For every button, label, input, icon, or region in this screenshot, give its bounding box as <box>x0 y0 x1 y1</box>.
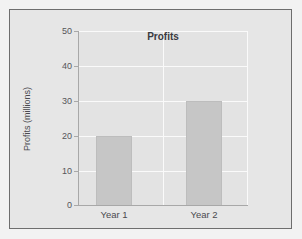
bar-chart-figure: 50 40 30 20 10 0 Year 1 Year 2 Profits P… <box>0 0 302 239</box>
y-tick-label-30: 30 <box>50 97 72 106</box>
gridline-x-right <box>247 31 248 205</box>
y-axis-tick-labels: 50 40 30 20 10 0 <box>48 0 72 239</box>
y-tick-label-0: 0 <box>50 201 72 210</box>
bar-year-2 <box>186 101 222 206</box>
x-tick-label-year-2: Year 2 <box>174 210 234 220</box>
y-tick-mark-30 <box>74 101 78 102</box>
y-tick-mark-10 <box>74 171 78 172</box>
x-axis-line <box>78 205 248 206</box>
y-tick-mark-40 <box>74 66 78 67</box>
y-tick-label-10: 10 <box>50 167 72 176</box>
y-axis-line <box>78 31 79 206</box>
y-tick-mark-0 <box>74 205 78 206</box>
chart-title: Profits <box>78 31 248 42</box>
y-tick-label-50: 50 <box>50 27 72 36</box>
gridline-x-center <box>163 31 164 205</box>
y-tick-mark-20 <box>74 136 78 137</box>
y-tick-label-40: 40 <box>50 62 72 71</box>
x-tick-label-year-1: Year 1 <box>84 210 144 220</box>
y-axis-title: Profits (millions) <box>22 69 32 169</box>
y-tick-label-20: 20 <box>50 132 72 141</box>
bar-year-1 <box>96 136 132 206</box>
